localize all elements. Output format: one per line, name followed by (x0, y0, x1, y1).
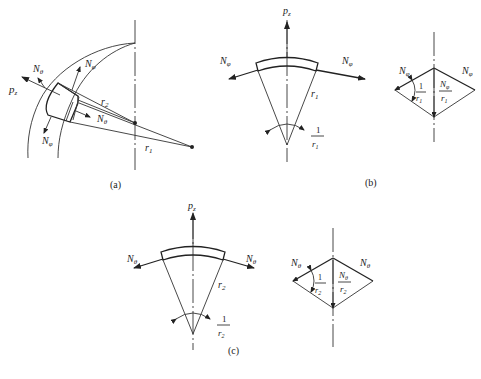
caption-a: (a) (110, 179, 121, 191)
rh-label-n-right-b: Nφ (461, 65, 473, 78)
label-n-phi-right-b: Nφ (341, 55, 353, 68)
rh-label-n-left-c: Nθ (290, 257, 302, 270)
shell-membrane-force-diagram: pz Nθ Nφ Nθ Nφ r2 r1 (a) pz Nφ Nφ r1 1 r… (0, 0, 481, 379)
n-phi-bottom-arrow (44, 117, 51, 133)
rh-res-num-b: Nφ (439, 79, 450, 90)
n-phi-right-arrow-b (316, 70, 365, 79)
n-phi-left-arrow-b (229, 70, 258, 79)
rh-label-n-right-c: Nθ (359, 257, 371, 270)
label-n-phi-bottom: Nφ (41, 135, 53, 148)
label-pz-c: pz (187, 200, 196, 213)
label-angle-num-c: 1 (222, 314, 227, 324)
panel-c-sector: pz Nθ Nθ r2 1 r2 (c) (126, 200, 257, 357)
label-r2: r2 (101, 96, 109, 109)
rh-angle-den-c: r2 (315, 286, 321, 296)
sector-edge-left-b (258, 71, 287, 145)
label-r1-b: r1 (311, 88, 318, 101)
n-theta-left-arrow-c (134, 259, 163, 268)
rh-angle-num-b: 1 (419, 82, 423, 91)
panel-b-sector: pz Nφ Nφ r1 1 r1 (219, 5, 365, 162)
label-n-theta-left-c: Nθ (126, 253, 138, 266)
label-pz-b: pz (282, 5, 291, 18)
caption-c: (c) (228, 345, 239, 357)
radius-r1-line (70, 122, 192, 147)
sector-edge-right-c (193, 260, 223, 334)
panel-c-force-polygon: Nθ Nθ 1 r2 Nθ r2 (290, 228, 373, 347)
radius-r1-line-upper (79, 103, 192, 147)
center-r2-point (133, 121, 137, 125)
rh-res-num-c: Nθ (338, 270, 348, 281)
label-n-theta-top: Nθ (32, 63, 44, 76)
label-r2-c: r2 (218, 279, 226, 292)
rh-label-n-left-b: Nφ (398, 65, 410, 78)
rhombus-bottom-left-c (293, 281, 333, 308)
rhombus-bottom-right-c (333, 281, 373, 308)
label-n-theta-right-c: Nθ (245, 253, 257, 266)
rhombus-angle-arc-c (311, 270, 314, 292)
label-pz: pz (8, 83, 18, 97)
caption-b: (b) (365, 177, 377, 189)
sector-edge-left-c (163, 260, 193, 334)
label-n-phi-top: Nφ (84, 58, 96, 71)
n-theta-right-arrow (76, 111, 90, 117)
label-angle-num-b: 1 (316, 125, 321, 135)
rh-res-den-b: r1 (441, 93, 448, 104)
panel-b-force-polygon: Nφ Nφ 1 r1 Nφ r1 (b) (365, 32, 475, 189)
rh-angle-den-b: r1 (416, 94, 422, 104)
center-r1-point (190, 145, 194, 149)
panel-a: pz Nθ Nφ Nθ Nφ r2 r1 (a) (8, 20, 194, 191)
inner-meridian-arc (58, 43, 135, 158)
label-n-theta-right: Nθ (96, 113, 108, 126)
label-n-phi-left-b: Nφ (219, 55, 231, 68)
label-angle-den-c: r2 (218, 328, 225, 339)
label-angle-den-b: r1 (312, 139, 319, 150)
rh-res-den-c: r2 (340, 284, 347, 295)
sector-edge-right-b (287, 71, 316, 145)
rhombus-angle-arc-b (412, 80, 415, 101)
label-r1: r1 (145, 142, 152, 155)
rh-angle-num-c: 1 (318, 273, 322, 282)
